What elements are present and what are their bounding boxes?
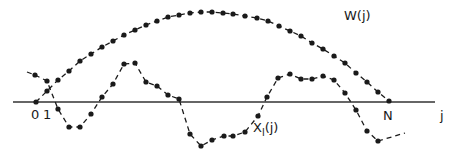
window-sample-dot [77, 58, 82, 63]
signal-curve-x [35, 63, 378, 146]
signal-sample-dot [165, 92, 170, 97]
window-sample-dot [44, 88, 49, 93]
signal-sample-dot [209, 137, 214, 142]
signal-lead-out [378, 133, 405, 141]
window-sample-dot [309, 40, 314, 45]
axis-label-one: 1 [43, 107, 51, 122]
window-sample-dot [187, 10, 192, 15]
signal-curve-samples [32, 60, 380, 148]
signal-sample-dot [55, 106, 60, 111]
signal-sample-dot [353, 107, 358, 112]
signal-sample-dot [198, 143, 203, 148]
signal-sample-dot [110, 81, 115, 86]
window-sample-dot [154, 18, 159, 23]
window-sample-dot [99, 44, 104, 49]
signal-sample-dot [121, 61, 126, 66]
window-sample-dot [230, 11, 235, 16]
axis-label-zero: 0 [31, 107, 39, 122]
window-sample-dot [386, 98, 391, 103]
window-sample-dot [276, 23, 281, 28]
axis-label-n: N [383, 108, 393, 123]
signal-sample-dot [230, 133, 235, 138]
window-sample-dot [33, 99, 38, 104]
window-sample-dot [66, 68, 71, 73]
signal-sample-dot [32, 72, 37, 77]
signal-sample-dot [264, 94, 269, 99]
axis-label-j: j [439, 108, 444, 123]
window-sample-dot [121, 32, 126, 37]
window-sample-dot [143, 22, 148, 27]
signal-sample-dot [99, 94, 104, 99]
window-sample-dot [287, 28, 292, 33]
window-signal-diagram: 0 1 N j W(j) Xl(j) [0, 0, 458, 160]
signal-label-x: X [253, 120, 262, 135]
signal-sample-dot [287, 71, 292, 76]
window-sample-dot [209, 9, 214, 14]
signal-sample-dot [221, 133, 226, 138]
signal-sample-dot [44, 78, 49, 83]
signal-sample-dot [320, 73, 325, 78]
window-sample-dot [375, 89, 380, 94]
signal-sample-dot [255, 113, 260, 118]
window-sample-dot [265, 18, 270, 23]
signal-sample-dot [154, 83, 159, 88]
signal-sample-dot [176, 96, 181, 101]
window-sample-dot [165, 14, 170, 19]
signal-curve-label: Xl(j) [253, 120, 278, 138]
signal-sample-dot [342, 90, 347, 95]
window-sample-dot [198, 9, 203, 14]
signal-sample-dot [143, 79, 148, 84]
signal-sample-dot [187, 131, 192, 136]
signal-sample-dot [298, 76, 303, 81]
window-sample-dot [298, 33, 303, 38]
signal-label-arg: (j) [265, 120, 279, 135]
signal-sample-dot [77, 124, 82, 129]
window-sample-dot [220, 10, 225, 15]
window-sample-dot [132, 27, 137, 32]
signal-sample-dot [375, 138, 380, 143]
window-sample-dot [364, 79, 369, 84]
signal-sample-dot [88, 111, 93, 116]
signal-sample-dot [309, 76, 314, 81]
signal-sample-dot [364, 128, 369, 133]
window-curve-samples [33, 9, 391, 104]
window-sample-dot [110, 38, 115, 43]
signal-sample-dot [275, 75, 280, 80]
window-sample-dot [353, 70, 358, 75]
signal-sample-dot [331, 77, 336, 82]
window-sample-dot [176, 12, 181, 17]
window-sample-dot [331, 53, 336, 58]
window-sample-dot [342, 60, 347, 65]
window-curve-label: W(j) [344, 8, 371, 23]
window-sample-dot [55, 77, 60, 82]
window-sample-dot [254, 15, 259, 20]
signal-sample-dot [242, 129, 247, 134]
window-sample-dot [320, 46, 325, 51]
window-sample-dot [88, 51, 93, 56]
window-sample-dot [242, 13, 247, 18]
signal-sample-dot [66, 124, 71, 129]
signal-sample-dot [132, 60, 137, 65]
